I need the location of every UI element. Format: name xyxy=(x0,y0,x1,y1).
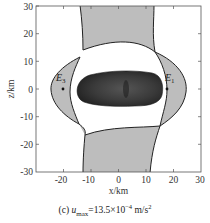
xtick-neg10: -10 xyxy=(82,175,95,185)
ytick-neg20: -20 xyxy=(20,140,33,150)
ytick-30: 30 xyxy=(24,2,34,12)
ytick-10: 10 xyxy=(24,57,34,67)
central-body xyxy=(77,71,163,106)
ytick-neg30: -30 xyxy=(20,167,33,177)
x-tick-labels: -20 -10 0 10 20 30 xyxy=(55,175,205,185)
left-crescent xyxy=(51,57,80,124)
y-tick-labels: 30 20 10 0 -10 -20 -30 xyxy=(20,2,33,178)
x-axis-label: x/km xyxy=(109,186,129,196)
body-dark-core xyxy=(123,80,129,98)
xtick-20: 20 xyxy=(169,175,179,185)
point-e3-marker xyxy=(62,88,65,91)
ytick-20: 20 xyxy=(24,29,34,39)
ytick-neg10: -10 xyxy=(20,112,33,122)
point-e1-marker xyxy=(166,88,169,91)
xtick-30: 30 xyxy=(195,175,205,185)
contour-plot: E3 E1 30 20 10 0 -10 -20 -30 -20 -10 0 1… xyxy=(0,0,210,223)
xtick-10: 10 xyxy=(141,175,151,185)
plot-area xyxy=(51,5,186,173)
y-axis-label: z/km xyxy=(6,79,16,99)
top-shaded-region xyxy=(80,5,155,52)
xtick-neg20: -20 xyxy=(55,175,68,185)
xtick-0: 0 xyxy=(116,175,121,185)
figure-caption: (c) umax=13.5×10−4 m/s2 xyxy=(0,203,210,218)
ytick-0: 0 xyxy=(28,85,33,95)
bottom-shaded-region xyxy=(79,124,160,173)
